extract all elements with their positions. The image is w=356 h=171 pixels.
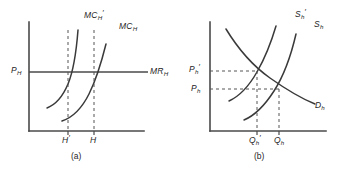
curve-s-h: [244, 34, 296, 120]
panel-a-plot: [0, 0, 178, 171]
label-mc-h: MCH: [119, 22, 137, 31]
label-q-h-prime: Qh′: [249, 136, 261, 145]
caption-panel-a: (a): [71, 152, 81, 161]
curve-d-h: [226, 29, 315, 104]
label-d-h: Dh: [315, 101, 325, 110]
panel-b: Sh′ Sh Dh Ph′ Ph Qh′ Qh (b): [178, 0, 356, 171]
label-p-h: Ph: [191, 84, 200, 93]
label-h: H: [90, 136, 96, 145]
label-mr-h: MRH: [150, 67, 168, 76]
label-h-prime: H′: [62, 136, 70, 145]
figure-root: MCH′ MCH MRH PH H′ H (a): [0, 0, 356, 171]
panel-b-plot: [178, 0, 356, 171]
caption-panel-b: (b): [254, 152, 264, 161]
label-p-h: PH: [11, 66, 21, 75]
label-s-h-prime: Sh′: [295, 10, 306, 19]
label-p-h-prime: Ph′: [189, 65, 200, 74]
label-s-h: Sh: [314, 20, 323, 29]
label-q-h: Qh: [274, 136, 284, 145]
panel-a: MCH′ MCH MRH PH H′ H (a): [0, 0, 178, 171]
label-mc-h-prime: MCH′: [84, 11, 104, 20]
panel-a-axes: [29, 22, 144, 131]
curve-mc-h-prime: [47, 30, 78, 108]
